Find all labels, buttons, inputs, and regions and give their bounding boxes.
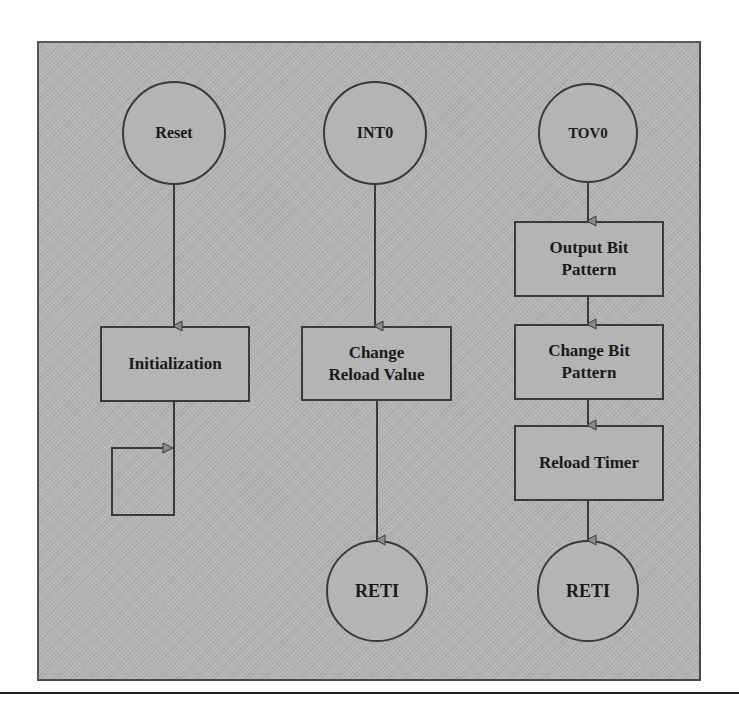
reti-label-int0: RETI [327,577,427,605]
reti-label-tov0: RETI [538,577,638,605]
change-bit-pattern-line2: Pattern [562,362,617,384]
page-rule [0,692,739,694]
change-reload-value-label: Change Reload Value [302,327,451,400]
int0-label: INT0 [324,120,426,146]
change-bit-pattern-line1: Change Bit [548,340,630,362]
output-bit-pattern-line2: Pattern [562,259,617,281]
reload-timer-label: Reload Timer [515,426,663,500]
change-reload-value-line2: Reload Value [329,364,425,386]
initialization-label: Initialization [101,327,249,401]
output-bit-pattern-line1: Output Bit [550,237,629,259]
change-bit-pattern-label: Change Bit Pattern [515,325,663,399]
output-bit-pattern-label: Output Bit Pattern [515,222,663,296]
edge-init-self-loop [112,402,174,515]
change-reload-value-line1: Change [349,342,405,364]
tov0-label: TOV0 [539,120,637,146]
reset-label: Reset [123,120,225,146]
